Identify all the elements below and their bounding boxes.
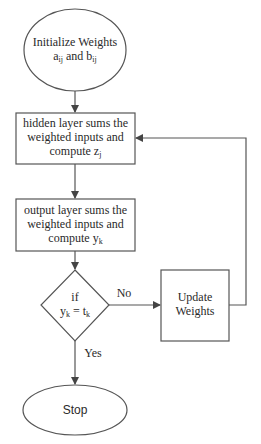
update-node-label: Update Weights [161,290,229,318]
compute-text: compute z [50,144,100,158]
update-line-2: Weights [161,304,229,318]
sub-k: k [86,310,90,319]
update-line-1: Update [161,290,229,304]
output-node-label: output layer sums the weighted inputs an… [16,203,135,245]
decision-line-1: if [45,290,105,304]
sub-ij: ij [92,55,96,64]
hidden-line-2: weighted inputs and [16,130,135,144]
sub-k: k [99,237,103,246]
equals-t: = t [70,304,86,318]
and-text: and [63,49,86,63]
output-line-1: output layer sums the [16,203,135,217]
decision-line-2: yk = tk [45,304,105,318]
start-line-2: aij and bij [24,49,126,63]
edge-label-yes: Yes [80,346,106,360]
start-node-label: Initialize Weights aij and bij [24,35,126,63]
output-line-2: weighted inputs and [16,217,135,231]
hidden-line-3: compute zj [16,144,135,158]
stop-node-label: Stop [23,403,127,417]
edge-label-no: No [112,286,136,300]
decision-node-label: if yk = tk [45,290,105,318]
start-line-1: Initialize Weights [24,35,126,49]
sub-j: j [99,150,101,159]
hidden-line-1: hidden layer sums the [16,116,135,130]
output-line-3: compute yk [16,231,135,245]
hidden-node-label: hidden layer sums the weighted inputs an… [16,116,135,158]
compute-text: compute y [48,231,98,245]
